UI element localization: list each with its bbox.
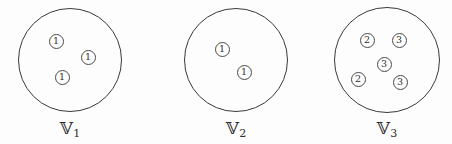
set-diagram-figure: 111𝕍111𝕍223323𝕍3: [0, 0, 452, 144]
set-label-base-3: 𝕍: [377, 118, 390, 138]
token-3-3: 3: [377, 57, 392, 72]
set-label-3: 𝕍3: [347, 118, 427, 140]
set-group-3: 23323𝕍3: [0, 0, 452, 144]
set-label-subscript-3: 3: [390, 127, 397, 140]
token-3-5: 3: [393, 75, 408, 90]
token-3-1: 2: [360, 33, 375, 48]
token-3-2: 3: [392, 33, 407, 48]
token-3-4: 2: [351, 72, 366, 87]
